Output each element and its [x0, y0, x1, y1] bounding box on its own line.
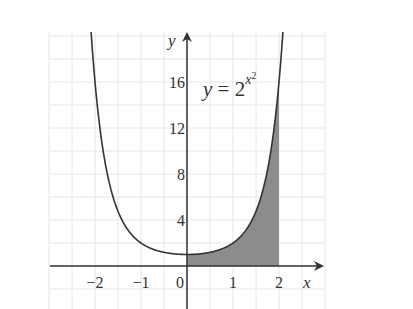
y-tick-label: 8 — [177, 166, 185, 183]
x-tick-label: −2 — [86, 274, 103, 291]
x-tick-label: −1 — [132, 274, 149, 291]
equation-base: = 2 — [212, 77, 245, 101]
function-plot: −2−1012 481216 x y y = 2x2 — [0, 0, 413, 309]
x-tick-label: 2 — [275, 274, 283, 291]
y-axis-label: y — [166, 31, 176, 50]
equation-lhs: y — [201, 77, 213, 101]
y-tick-label: 4 — [177, 212, 185, 229]
x-tick-label: 1 — [229, 274, 237, 291]
y-tick-label: 16 — [169, 74, 185, 91]
x-tick-label: 0 — [176, 274, 184, 291]
equation-label: y = 2x2 — [201, 70, 256, 101]
equation-exponent-power: 2 — [251, 70, 256, 81]
x-axis-label: x — [302, 273, 311, 292]
y-tick-label: 12 — [169, 120, 185, 137]
x-tick-labels: −2−1012 — [86, 274, 283, 291]
